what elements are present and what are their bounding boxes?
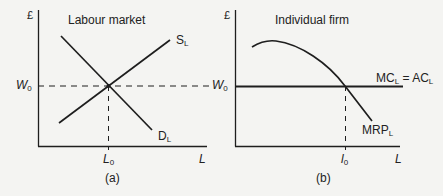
- panel-b-x-axis-label: L: [395, 153, 402, 165]
- ac-subscript: L: [429, 77, 433, 86]
- panel-a-wage-label: W0: [16, 79, 32, 93]
- mrp-subscript: L: [389, 129, 393, 138]
- mrp-label: MRPL: [362, 124, 393, 138]
- supply-subscript: L: [184, 39, 188, 48]
- panel-b-caption: (b): [316, 172, 331, 184]
- supply-symbol: S: [176, 33, 184, 47]
- panel-a-wage-subscript: 0: [27, 84, 31, 93]
- mc-symbol: MC: [376, 71, 395, 85]
- panel-b-wage-label: W0: [212, 79, 228, 93]
- demand-subscript: L: [167, 135, 171, 144]
- supply-label: SL: [176, 34, 188, 48]
- panel-b-wage-subscript: 0: [223, 84, 227, 93]
- demand-label: DL: [158, 130, 171, 144]
- panel-a-title: Labour market: [68, 14, 145, 26]
- panel-a-quantity-symbol: L: [103, 152, 110, 166]
- equals-sign: =: [399, 71, 412, 85]
- demand-curve: [61, 36, 152, 130]
- demand-symbol: D: [158, 129, 167, 143]
- panel-b-title: Individual firm: [275, 14, 349, 26]
- supply-curve: [59, 40, 170, 123]
- panel-a-wage-symbol: W: [16, 78, 27, 92]
- mrp-symbol: MRP: [362, 123, 389, 137]
- diagram-canvas: [0, 0, 443, 196]
- panel-a-y-axis-label: £: [27, 10, 33, 21]
- mrp-curve: [252, 41, 372, 121]
- ac-symbol: AC: [412, 71, 429, 85]
- panel-a-caption: (a): [105, 172, 120, 184]
- panel-a-quantity-label: L0: [103, 153, 114, 167]
- panel-b-quantity-subscript: 0: [344, 158, 348, 167]
- mc-ac-label: MCL = ACL: [376, 72, 433, 86]
- equilibrium-point: [107, 84, 111, 88]
- panel-b-wage-symbol: W: [212, 78, 223, 92]
- panel-a-quantity-subscript: 0: [110, 158, 114, 167]
- panel-b-quantity-label: l0: [341, 153, 348, 167]
- panel-a-axes: [38, 10, 207, 147]
- panel-a-x-axis-label: L: [199, 153, 206, 165]
- panel-b-y-axis-label: £: [224, 10, 230, 21]
